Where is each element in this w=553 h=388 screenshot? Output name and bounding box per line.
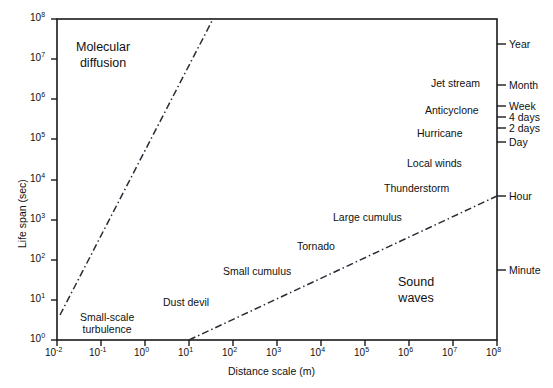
phenomenon-label-local-winds: Local winds	[407, 157, 462, 169]
x-tick-label-1: 10-1	[89, 347, 106, 359]
x-tick-exp-5: 3	[277, 346, 281, 353]
y-tick-label-4: 104	[30, 173, 45, 185]
phenomenon-small-scale-line1: Small-scale	[80, 311, 134, 323]
y-tick-label-0: 108	[30, 12, 45, 24]
x-tick-label-10: 108	[486, 347, 501, 359]
x-tick-exp-9: 7	[453, 346, 457, 353]
right-axis-ticks	[497, 44, 506, 270]
y-tick-exp-5: 3	[41, 212, 45, 219]
x-tick-label-0: 10-2	[45, 347, 62, 359]
region-label-sound-waves: Sound waves	[398, 275, 434, 306]
y-tick-label-3: 105	[30, 132, 45, 144]
y-tick-label-7: 101	[30, 293, 45, 305]
right-axis-label-minute: Minute	[509, 264, 541, 276]
y-tick-exp-4: 4	[41, 172, 45, 179]
x-tick-label-6: 104	[310, 347, 325, 359]
right-axis-label-month: Month	[509, 79, 538, 91]
y-tick-label-6: 102	[30, 253, 45, 265]
x-tick-label-4: 102	[222, 347, 237, 359]
x-tick-exp-0: -2	[56, 346, 62, 353]
y-axis-ticks	[51, 19, 57, 340]
x-tick-label-5: 103	[266, 347, 281, 359]
y-tick-exp-1: 7	[41, 51, 45, 58]
y-axis-title: Life span (sec)	[16, 179, 28, 248]
phenomenon-small-scale-line2: turbulence	[80, 323, 134, 335]
region-label-sound-line1: Sound	[398, 275, 434, 291]
x-tick-exp-8: 6	[409, 346, 413, 353]
chart-figure: 10-2 10-1 100 101 102 103 104 105 106 10…	[0, 0, 553, 388]
phenomenon-label-small-scale-turbulence: Small-scale turbulence	[80, 311, 134, 336]
phenomenon-label-jet-stream: Jet stream	[431, 77, 480, 89]
x-tick-exp-3: 1	[189, 346, 193, 353]
x-tick-exp-6: 4	[321, 346, 325, 353]
phenomenon-label-dust-devil: Dust devil	[163, 296, 209, 308]
x-tick-label-7: 105	[354, 347, 369, 359]
y-tick-label-1: 107	[30, 52, 45, 64]
phenomenon-label-small-cumulus: Small cumulus	[223, 265, 291, 277]
x-tick-exp-7: 5	[365, 346, 369, 353]
y-tick-label-2: 106	[30, 92, 45, 104]
x-tick-exp-4: 2	[233, 346, 237, 353]
phenomenon-label-thunderstorm: Thunderstorm	[384, 182, 449, 194]
y-tick-exp-0: 8	[41, 11, 45, 18]
phenomenon-label-anticyclone: Anticyclone	[425, 104, 479, 116]
right-axis-label-year: Year	[509, 38, 530, 50]
x-tick-label-8: 106	[398, 347, 413, 359]
x-tick-exp-10: 8	[497, 346, 501, 353]
y-tick-exp-8: 0	[41, 332, 45, 339]
phenomenon-label-tornado: Tornado	[297, 240, 335, 252]
region-label-sound-line2: waves	[398, 291, 434, 307]
x-tick-label-9: 107	[442, 347, 457, 359]
y-tick-exp-3: 5	[41, 131, 45, 138]
y-tick-exp-2: 6	[41, 91, 45, 98]
x-tick-label-2: 100	[134, 347, 149, 359]
x-tick-exp-2: 0	[145, 346, 149, 353]
x-tick-exp-1: -1	[100, 346, 106, 353]
x-tick-label-3: 101	[178, 347, 193, 359]
y-tick-exp-7: 1	[41, 292, 45, 299]
region-label-molecular-line2: diffusion	[76, 56, 130, 72]
phenomenon-label-large-cumulus: Large cumulus	[333, 211, 402, 223]
y-tick-exp-6: 2	[41, 252, 45, 259]
region-label-molecular-line1: Molecular	[76, 40, 130, 56]
right-axis-label-2-days: 2 days	[509, 122, 540, 134]
right-axis-label-hour: Hour	[509, 190, 532, 202]
y-tick-label-5: 103	[30, 213, 45, 225]
x-axis-title: Distance scale (m)	[228, 365, 315, 377]
right-axis-label-day: Day	[509, 136, 528, 148]
region-label-molecular-diffusion: Molecular diffusion	[76, 40, 130, 71]
phenomenon-label-hurricane: Hurricane	[417, 127, 463, 139]
y-tick-label-8: 100	[30, 333, 45, 345]
